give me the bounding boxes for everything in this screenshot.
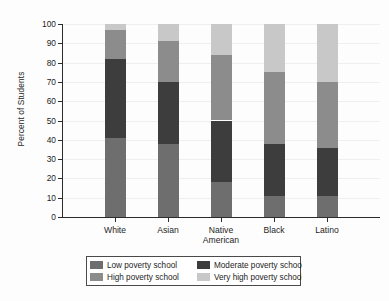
y-tick-label: 10 [47,193,56,203]
legend-item: Low poverty school [90,261,197,270]
y-tick-mark [58,140,62,141]
x-tick-mark [168,218,169,222]
legend-swatch [90,261,103,269]
y-tick-mark [58,24,62,25]
x-tick-label-line: Latino [282,225,372,235]
legend-label: Very high poverty school [214,273,302,282]
y-tick-mark [58,217,62,218]
y-tick-label: 100 [42,19,56,29]
bar-segment [264,24,285,72]
bar-segment [317,82,338,148]
y-tick-label: 60 [47,96,56,106]
x-tick-mark [221,218,222,222]
bar-segment [264,196,285,217]
legend: Low poverty schoolModerate poverty schoo… [86,256,301,286]
bar-segment [211,24,232,55]
y-tick-label: 90 [47,38,56,48]
y-tick-mark [58,159,62,160]
bar-segment [264,144,285,196]
x-tick-label-line: American [176,235,266,245]
y-tick-mark [58,43,62,44]
x-tick-mark [327,218,328,222]
legend-label: High poverty school [107,273,179,282]
legend-swatch [197,261,210,269]
y-axis-title: Percent of Students [16,49,26,169]
y-tick-mark [58,178,62,179]
bar-segment [317,148,338,196]
bar-segment [158,82,179,144]
y-tick-label: 70 [47,77,56,87]
bar-segment [264,72,285,143]
bar-segment [211,121,232,183]
x-tick-mark [274,218,275,222]
bar-segment [211,55,232,121]
stacked-bar [105,24,126,218]
x-tick-label: Latino [282,225,372,235]
y-tick-label: 0 [51,212,56,222]
y-tick-mark [58,198,62,199]
x-tick-mark [115,218,116,222]
bar-segment [105,138,126,217]
legend-item: Very high poverty school [197,273,302,282]
y-tick-label: 20 [47,173,56,183]
bar-segment [105,30,126,59]
legend-label: Low poverty school [107,261,177,270]
y-tick-mark [58,63,62,64]
bar-segment [317,196,338,217]
legend-swatch [197,273,210,281]
stacked-bar [264,24,285,218]
bar-segment [158,41,179,82]
bar-segment [105,59,126,138]
bar-segment [317,24,338,82]
bar-segment [105,24,126,30]
y-tick-mark [58,101,62,102]
y-tick-label: 30 [47,154,56,164]
stacked-bar [158,24,179,218]
plot-area: 0102030405060708090100 WhiteAsianNativeA… [62,24,380,218]
y-tick-mark [58,82,62,83]
legend-label: Moderate poverty school [214,261,302,270]
y-tick-label: 50 [47,116,56,126]
legend-item: High poverty school [90,273,197,282]
stacked-bar [317,24,338,218]
y-tick-label: 40 [47,135,56,145]
bar-segment [158,144,179,217]
bar-segment [211,182,232,217]
legend-item: Moderate poverty school [197,261,302,270]
y-tick-label: 80 [47,58,56,68]
bar-segment [158,24,179,41]
y-tick-mark [58,121,62,122]
poverty-distribution-chart: Percent of Students 01020304050607080901… [0,0,389,301]
legend-swatch [90,273,103,281]
stacked-bar [211,24,232,218]
